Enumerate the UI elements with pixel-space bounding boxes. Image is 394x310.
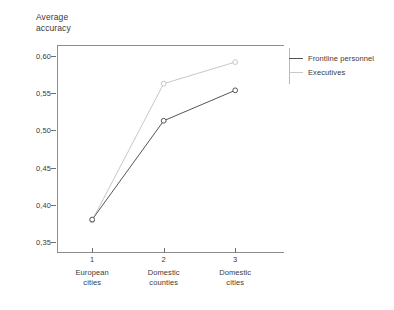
x-axis-category-label: Domestic cities [195, 268, 275, 288]
y-axis-tick-mark [51, 93, 56, 94]
line-chart: Average accuracy 0,350,400,450,500,550,6… [0, 0, 394, 310]
y-axis-tick-mark [51, 56, 56, 57]
data-point-marker [233, 60, 238, 65]
y-axis-tick-mark [51, 130, 56, 131]
x-axis-tick-mark [164, 248, 165, 253]
series-line [92, 90, 235, 219]
x-axis-category-label: European cities [52, 268, 132, 288]
x-axis-tick-mark [235, 248, 236, 253]
y-axis-tick-label: 0,60 [36, 52, 51, 61]
legend-label: Executives [308, 68, 345, 77]
x-axis-tick-label: 1 [62, 255, 122, 264]
legend-line-swatch [289, 58, 303, 59]
data-point-marker [161, 118, 166, 123]
y-axis-tick-label: 0,35 [36, 237, 51, 246]
legend: Frontline personnelExecutives [289, 52, 389, 80]
plot-series-layer [57, 45, 284, 253]
x-axis-tick-mark [92, 248, 93, 253]
y-axis-tick-labels: 0,350,400,450,500,550,60 [18, 0, 51, 310]
legend-item: Executives [289, 66, 389, 78]
y-axis-tick-label: 0,45 [36, 163, 51, 172]
y-axis-tick-label: 0,55 [36, 89, 51, 98]
y-axis-tick-label: 0,40 [36, 200, 51, 209]
x-axis-tick-label: 3 [205, 255, 265, 264]
y-axis-tick-mark [51, 205, 56, 206]
x-axis-tick-label: 2 [134, 255, 194, 264]
data-point-marker [90, 217, 95, 222]
legend-item: Frontline personnel [289, 52, 389, 64]
data-point-marker [161, 81, 166, 86]
y-axis-tick-mark [51, 242, 56, 243]
y-axis-tick-mark [51, 168, 56, 169]
legend-label: Frontline personnel [308, 54, 374, 63]
data-point-marker [233, 88, 238, 93]
x-axis-category-label: Domestic counties [124, 268, 204, 288]
y-axis-tick-label: 0,50 [36, 126, 51, 135]
legend-line-swatch [289, 72, 303, 73]
